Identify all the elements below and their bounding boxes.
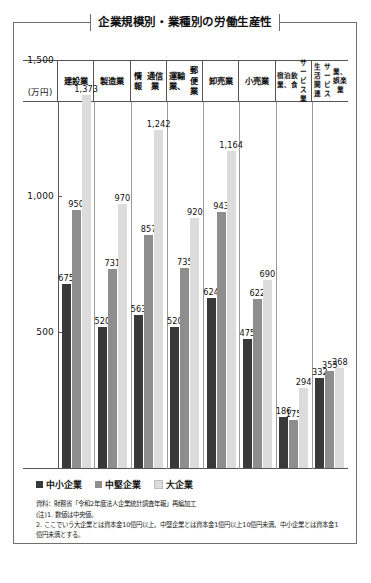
category-header-5: 卸売業 bbox=[203, 61, 239, 101]
bar-生活関連サービス業、娯楽業-中小企業: 332 bbox=[315, 378, 324, 468]
page-title: 企業規模別・業種別の労働生産性 bbox=[90, 14, 280, 31]
bar-group-8: 332355368 bbox=[312, 368, 348, 468]
bar-卸売業-大企業: 1,164 bbox=[227, 151, 236, 468]
bar-group-5: 6249431,164 bbox=[203, 151, 239, 468]
y-tick-1000: 1,000 bbox=[23, 191, 58, 201]
legend-item-3: 大企業 bbox=[154, 478, 193, 491]
bar-小売業-大企業: 690 bbox=[263, 280, 272, 468]
bar-group-4: 520735920 bbox=[167, 218, 203, 468]
bar-value-label: 970 bbox=[114, 193, 130, 203]
bar-group-7: 186175294 bbox=[276, 388, 312, 468]
bar-group-1: 6759501,373 bbox=[58, 95, 94, 468]
category-header-8: 生活関連サービス業、娯楽業 bbox=[312, 61, 348, 101]
bar-group-3: 5638571,242 bbox=[131, 130, 167, 468]
bar-宿泊業、飲食サービス業-大企業: 294 bbox=[299, 388, 308, 468]
y-tick-500: 500 bbox=[23, 327, 58, 337]
note-1: (注)1. 数値は中央値。 bbox=[36, 511, 344, 521]
bar-生活関連サービス業、娯楽業-中堅企業: 355 bbox=[325, 371, 334, 468]
bar-value-label: 920 bbox=[187, 207, 203, 217]
bar-情報通信業-中堅企業: 857 bbox=[144, 235, 153, 468]
legend-label: 中小企業 bbox=[46, 478, 82, 491]
chart-figure: 企業規模別・業種別の労働生産性 (万円)建設業製造業情報通信業運輸業、郵便業卸売… bbox=[13, 22, 357, 544]
legend-swatch-icon bbox=[95, 481, 102, 488]
bar-value-label: 294 bbox=[296, 377, 312, 387]
bar-建設業-大企業: 1,373 bbox=[82, 95, 91, 468]
bar-運輸業、郵便業-大企業: 920 bbox=[190, 218, 199, 468]
legend-item-1: 中小企業 bbox=[36, 478, 82, 491]
bar-運輸業、郵便業-中小企業: 520 bbox=[170, 327, 179, 468]
bar-value-label: 1,373 bbox=[74, 84, 98, 94]
category-header-2: 製造業 bbox=[94, 61, 130, 101]
category-header-4: 運輸業、郵便業 bbox=[167, 61, 203, 101]
legend-item-2: 中堅企業 bbox=[95, 478, 141, 491]
bar-宿泊業、飲食サービス業-中小企業: 186 bbox=[279, 417, 288, 468]
y-tick-1500: 1,500 bbox=[23, 55, 58, 65]
legend-swatch-icon bbox=[36, 481, 43, 488]
bar-建設業-中堅企業: 950 bbox=[72, 210, 81, 468]
bar-value-label: 1,242 bbox=[147, 119, 171, 129]
legend-label: 中堅企業 bbox=[105, 478, 141, 491]
bar-製造業-大企業: 970 bbox=[118, 204, 127, 468]
bar-group-2: 520731970 bbox=[94, 204, 130, 468]
y-axis-unit-label: (万円) bbox=[23, 61, 58, 101]
bar-製造業-中小企業: 520 bbox=[98, 327, 107, 468]
legend-label: 大企業 bbox=[166, 478, 193, 491]
bar-group-6: 475622690 bbox=[239, 280, 275, 468]
bar-情報通信業-大企業: 1,242 bbox=[154, 130, 163, 468]
chart-title-band: 企業規模別・業種別の労働生産性 bbox=[14, 14, 356, 31]
category-header-6: 小売業 bbox=[239, 61, 275, 101]
bar-宿泊業、飲食サービス業-中堅企業: 175 bbox=[289, 420, 298, 468]
bar-情報通信業-中小企業: 563 bbox=[134, 315, 143, 468]
category-header-3: 情報通信業 bbox=[131, 61, 167, 101]
x-axis-baseline bbox=[23, 468, 348, 469]
bar-小売業-中小企業: 475 bbox=[243, 339, 252, 468]
bar-生活関連サービス業、娯楽業-大企業: 368 bbox=[335, 368, 344, 468]
plot-area: 5001,0001,5006759501,3735207319705638571… bbox=[23, 102, 348, 469]
bar-卸売業-中小企業: 624 bbox=[207, 298, 216, 468]
note-source: 資料：財務省「令和2年度法人企業統計調査年報」再編加工 bbox=[36, 500, 344, 510]
bar-value-label: 1,164 bbox=[219, 140, 243, 150]
legend-swatch-icon bbox=[154, 480, 163, 489]
bar-value-label: 368 bbox=[332, 357, 348, 367]
chart-notes: 資料：財務省「令和2年度法人企業統計調査年報」再編加工 (注)1. 数値は中央値… bbox=[36, 500, 344, 541]
bar-製造業-中堅企業: 731 bbox=[108, 269, 117, 468]
bar-卸売業-中堅企業: 943 bbox=[217, 212, 226, 468]
bar-value-label: 690 bbox=[259, 269, 275, 279]
bar-小売業-中堅企業: 622 bbox=[253, 299, 262, 468]
note-2: 2. ここでいう大企業とは資本金10億円以上、中堅企業とは資本金1億円以上10億… bbox=[36, 521, 344, 540]
bar-運輸業、郵便業-中堅企業: 735 bbox=[180, 268, 189, 468]
bar-建設業-中小企業: 675 bbox=[62, 284, 71, 468]
chart-legend: 中小企業中堅企業大企業 bbox=[36, 478, 193, 491]
category-header-7: 宿泊業、飲食サービス業 bbox=[276, 61, 312, 101]
